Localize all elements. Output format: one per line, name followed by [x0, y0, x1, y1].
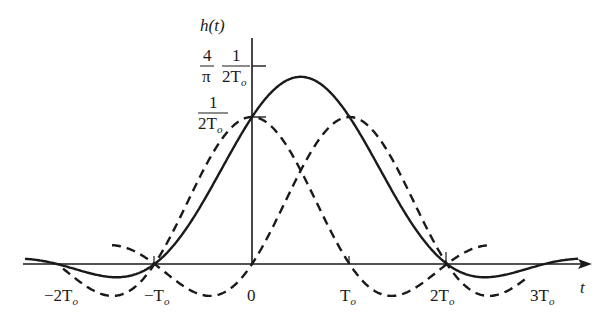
x-tick-label-2To: 2To [430, 286, 455, 307]
x-tick-label-neg-To: −To [144, 286, 170, 307]
sum-pulse-curve [25, 77, 578, 277]
svg-text:2To: 2To [222, 67, 247, 88]
x-axis-label: t [580, 278, 586, 297]
svg-text:4: 4 [203, 46, 212, 65]
y-tick-label-half: 1 2To [198, 93, 228, 135]
x-tick-label-neg-2To: −2To [44, 286, 78, 307]
pulse-at-0-curve [63, 117, 488, 296]
svg-text:1: 1 [232, 46, 241, 65]
y-axis-label: h(t) [200, 16, 225, 35]
x-tick-label-To: To [340, 286, 356, 307]
y-tick-label-peak: 4 π 1 2To [200, 46, 250, 88]
svg-text:π: π [202, 67, 211, 86]
pulse-diagram: h(t) 4 π 1 2To 1 2To −2To −To 0 To 2To 3… [0, 0, 611, 324]
x-tick-label-3To: 3To [530, 286, 555, 307]
svg-text:1: 1 [209, 93, 218, 112]
svg-text:2To: 2To [198, 114, 223, 135]
x-tick-label-0: 0 [247, 286, 256, 305]
